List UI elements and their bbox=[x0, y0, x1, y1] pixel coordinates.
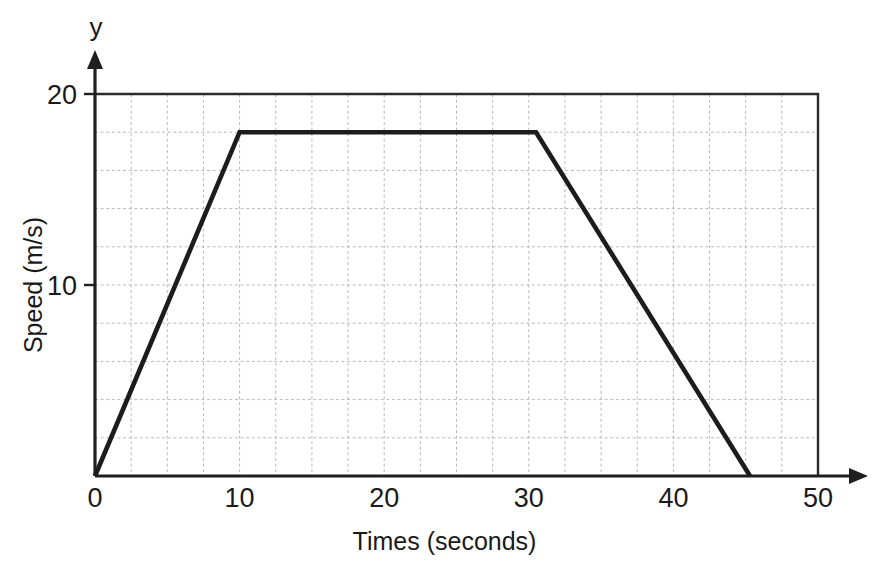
x-tick-label: 10 bbox=[225, 483, 255, 513]
x-axis-title: Times (seconds) bbox=[353, 527, 537, 555]
y-tick-label: 20 bbox=[47, 80, 77, 110]
y-tick-label: 10 bbox=[47, 271, 77, 301]
y-axis-name: y bbox=[90, 12, 103, 42]
x-tick-label: 40 bbox=[658, 483, 688, 513]
chart-background bbox=[0, 0, 883, 577]
x-tick-label: 30 bbox=[514, 483, 544, 513]
speed-time-chart: 01020304050 1020 Times (seconds) Speed (… bbox=[0, 0, 883, 577]
x-tick-label: 50 bbox=[803, 483, 833, 513]
y-axis-title: Speed (m/s) bbox=[19, 217, 47, 353]
x-tick-label: 20 bbox=[369, 483, 399, 513]
x-tick-label: 0 bbox=[87, 483, 102, 513]
chart-figure: 01020304050 1020 Times (seconds) Speed (… bbox=[0, 0, 883, 577]
